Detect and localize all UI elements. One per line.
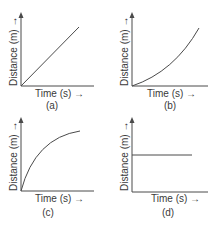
- y-axis-label: Distance (m) →: [8, 17, 19, 86]
- distance-time-line: [21, 27, 79, 86]
- y-axis-label: Distance (m) →: [119, 17, 130, 86]
- graph-caption: (a): [37, 100, 67, 111]
- x-axis-label: Time (s) →: [35, 88, 84, 99]
- graph-d: Distance (m) → Time (s) → (d): [109, 113, 217, 226]
- y-axis-label: Distance (m) →: [8, 122, 19, 191]
- distance-time-curve: [132, 28, 199, 86]
- x-axis-label: Time (s) →: [35, 193, 84, 204]
- graph-caption: (c): [33, 207, 63, 218]
- graph-c: Distance (m) → Time (s) → (c): [0, 113, 108, 226]
- x-axis-label: Time (s) →: [151, 193, 200, 204]
- graph-a: Distance (m) → Time (s) → (a): [0, 0, 108, 113]
- distance-time-curve: [21, 131, 80, 191]
- graph-caption: (b): [155, 100, 185, 111]
- y-axis-label: Distance (m) →: [119, 122, 130, 191]
- graph-caption: (d): [153, 207, 183, 218]
- x-axis-label: Time (s) →: [147, 88, 196, 99]
- graph-b: Distance (m) → Time (s) → (b): [109, 0, 217, 113]
